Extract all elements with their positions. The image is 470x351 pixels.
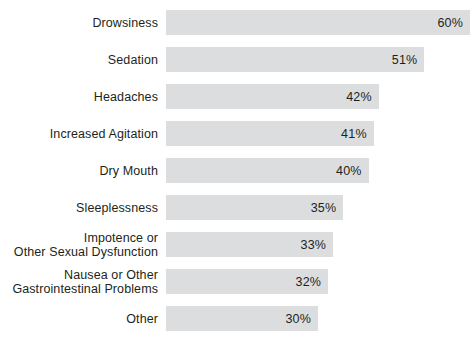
bar-track: 32% [166,269,470,294]
bar-category-label: Increased Agitation [0,127,166,141]
bar-category-label: Other [0,312,166,326]
bar-category-label: Headaches [0,90,166,104]
bar-track: 42% [166,84,470,109]
bar-value-label: 33% [301,238,327,252]
bar: 40% [166,158,369,183]
bar-value-label: 40% [336,164,362,178]
bar: 33% [166,232,333,257]
bar-chart-row: Headaches42% [0,84,470,109]
bar-chart: Drowsiness60%Sedation51%Headaches42%Incr… [0,0,470,351]
bar-track: 41% [166,121,470,146]
bar-track: 60% [166,10,470,35]
bar-value-label: 32% [296,275,322,289]
bar: 60% [166,10,470,35]
bar: 42% [166,84,379,109]
bar-category-label: Dry Mouth [0,164,166,178]
bar: 30% [166,306,318,331]
bar-chart-row: Nausea or Other Gastrointestinal Problem… [0,269,470,294]
bar: 41% [166,121,374,146]
bar-category-label: Impotence or Other Sexual Dysfunction [0,231,166,259]
bar: 32% [166,269,328,294]
bar-track: 40% [166,158,470,183]
bar-category-label: Sleeplessness [0,201,166,215]
bar-value-label: 30% [285,312,311,326]
bar-value-label: 42% [346,90,372,104]
bar-track: 33% [166,232,470,257]
bar-chart-row: Sleeplessness35% [0,195,470,220]
bar-value-label: 41% [341,127,367,141]
bar-chart-row: Drowsiness60% [0,10,470,35]
bar-value-label: 35% [311,201,337,215]
bar-value-label: 60% [437,16,463,30]
bar-chart-row: Impotence or Other Sexual Dysfunction33% [0,232,470,257]
bar-chart-row: Sedation51% [0,47,470,72]
bar-category-label: Sedation [0,53,166,67]
bar: 35% [166,195,343,220]
bar: 51% [166,47,424,72]
bar-track: 35% [166,195,470,220]
bar-category-label: Nausea or Other Gastrointestinal Problem… [0,268,166,296]
bar-track: 30% [166,306,470,331]
bar-chart-row: Dry Mouth40% [0,158,470,183]
bar-value-label: 51% [392,53,418,67]
bar-chart-row: Other30% [0,306,470,331]
bar-chart-rows: Drowsiness60%Sedation51%Headaches42%Incr… [0,10,470,331]
bar-chart-row: Increased Agitation41% [0,121,470,146]
bar-track: 51% [166,47,470,72]
bar-category-label: Drowsiness [0,16,166,30]
